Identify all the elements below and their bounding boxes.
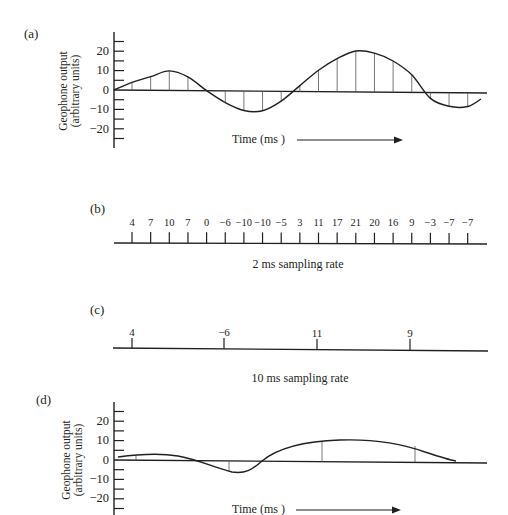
sample-value: 9 — [407, 327, 413, 339]
sample-value: 9 — [409, 217, 414, 228]
panel-d-label: (d) — [36, 392, 51, 407]
panel-a-label: (a) — [24, 26, 38, 41]
sample-value: 3 — [297, 217, 302, 228]
panel-d-xlabel: Time (ms ) — [232, 502, 285, 515]
panel-c-label: (c) — [90, 302, 104, 317]
sample-value: 7 — [185, 217, 190, 228]
panel-a: (a) Geophone output (arbitrary units) 20… — [24, 26, 487, 148]
time-arrow-icon — [297, 137, 403, 144]
sample-value: 11 — [312, 327, 323, 339]
ytick-label: 10 — [97, 433, 110, 447]
sample-value: 4 — [129, 326, 135, 338]
sample-value: −3 — [425, 217, 436, 228]
panel-b-time-line — [114, 243, 487, 244]
ytick-label: 0 — [103, 83, 109, 97]
time-arrow-icon — [296, 507, 401, 514]
panel-d-ylabel: Geophone output (arbitrary units) — [60, 419, 85, 499]
panel-d-aliased-waveform — [118, 440, 456, 473]
panel-d: (d) Geophone output (arbitrary units) 20… — [36, 392, 487, 515]
sample-value: 11 — [313, 217, 323, 228]
sample-value: −10 — [254, 217, 270, 228]
panel-a-xlabel: Time (ms ) — [232, 132, 285, 146]
sample-value: 16 — [388, 217, 399, 228]
ytick-label: 10 — [97, 63, 110, 77]
sample-value: −6 — [218, 326, 230, 338]
ytick-label: 0 — [103, 453, 109, 467]
panel-a-yticks: 20 10 0 −10 −20 — [89, 44, 109, 136]
panel-d-yticks: 20 10 0 −10 −20 — [89, 414, 109, 505]
panel-a-ylabel: Geophone output (arbitrary units) — [57, 50, 82, 130]
panel-a-ylabel-line2: (arbitrary units) — [69, 55, 82, 128]
sample-value: 20 — [369, 217, 380, 228]
ytick-label: 20 — [97, 44, 110, 58]
sample-value: −7 — [443, 217, 454, 228]
sample-value: −6 — [220, 217, 231, 228]
sample-value: −10 — [236, 217, 252, 228]
panel-b-label: (b) — [90, 201, 105, 216]
panel-c: (c) 4 −6 11 9 10 ms sampling rate — [90, 302, 488, 385]
panel-b-sample-ticks — [132, 232, 468, 244]
panel-d-ylabel-line2: (arbitrary units) — [72, 424, 85, 497]
panel-a-zero-line — [114, 90, 487, 93]
sample-value: −7 — [462, 217, 473, 228]
sample-value: 0 — [204, 217, 209, 228]
panel-b: (b) 4 7 10 7 0 −6 −10 −10 −5 3 11 17 21 … — [90, 201, 487, 271]
panel-c-sample-values: 4 −6 11 9 — [129, 326, 413, 339]
seismic-sampling-figure: (a) Geophone output (arbitrary units) 20… — [0, 0, 508, 515]
ytick-label: −10 — [89, 102, 109, 116]
panel-b-sample-values: 4 7 10 7 0 −6 −10 −10 −5 3 11 17 21 20 1… — [129, 217, 473, 228]
sample-value: −5 — [276, 217, 287, 228]
ytick-label: −20 — [89, 491, 109, 505]
panel-c-time-line — [113, 348, 488, 351]
sample-value: 7 — [148, 217, 153, 228]
panel-d-zero-line — [114, 460, 487, 463]
sample-value: 10 — [164, 217, 175, 228]
sample-value: 17 — [332, 217, 343, 228]
panel-c-caption: 10 ms sampling rate — [252, 371, 349, 385]
ytick-label: 20 — [97, 414, 110, 428]
sample-value: 4 — [129, 217, 135, 228]
ytick-label: −10 — [89, 472, 109, 486]
panel-b-caption: 2 ms sampling rate — [253, 257, 344, 271]
sample-value: 21 — [351, 217, 362, 228]
ytick-label: −20 — [89, 122, 109, 136]
